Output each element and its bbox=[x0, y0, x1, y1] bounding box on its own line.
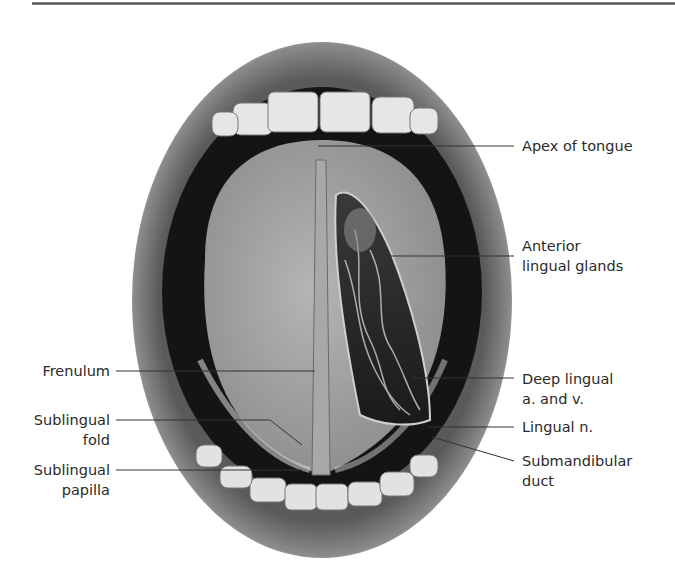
label-lingual-nerve: Lingual n. bbox=[522, 417, 593, 437]
label-frenulum: Frenulum bbox=[42, 361, 110, 381]
label-sublingual-fold: Sublingual fold bbox=[34, 410, 110, 450]
label-sublingual-papilla: Sublingual papilla bbox=[34, 460, 110, 500]
label-submandibular-duct: Submandibular duct bbox=[522, 451, 632, 491]
label-anterior-lingual-glands: Anterior lingual glands bbox=[522, 236, 623, 276]
label-deep-lingual: Deep lingual a. and v. bbox=[522, 369, 613, 409]
label-apex-of-tongue: Apex of tongue bbox=[522, 136, 633, 156]
